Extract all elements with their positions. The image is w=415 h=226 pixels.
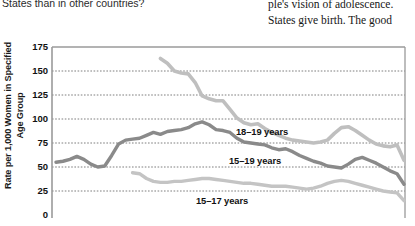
series-label-15-19: 15–19 years — [229, 155, 281, 166]
data-series — [56, 59, 404, 201]
series-line-18-19 — [160, 59, 404, 161]
line-chart: Rate per 1,000 Women in Specified Age Gr… — [0, 36, 415, 226]
left-column-text: States than in other countries? — [2, 0, 202, 11]
series-line-15-17 — [133, 173, 404, 201]
right-column-line-2: States give birth. The good — [268, 13, 415, 29]
right-column-text: ple's vision of adolescence. States give… — [268, 0, 415, 28]
page-root: States than in other countries? ple's vi… — [0, 0, 415, 226]
series-line-15-19 — [56, 122, 404, 184]
series-label-18-19: 18–19 years — [236, 126, 288, 137]
series-label-15-17: 15–17 years — [196, 195, 248, 206]
right-column-line-1: ple's vision of adolescence. — [268, 0, 415, 13]
